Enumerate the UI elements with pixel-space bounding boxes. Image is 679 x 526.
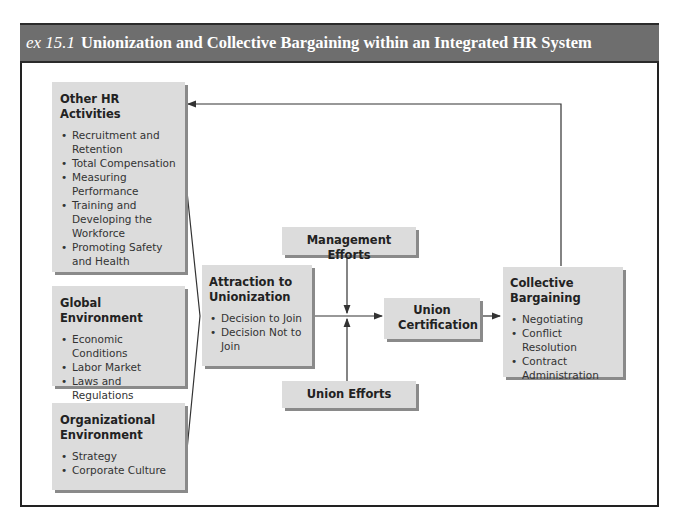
box-title: Attraction to Unionization — [209, 275, 305, 305]
list-item: Labor Market — [60, 360, 177, 374]
box-management-efforts: Management Efforts — [282, 227, 416, 255]
box-attraction-to-unionization: Attraction to Unionization Decision to J… — [202, 265, 312, 366]
list-item: Recruitment and Retention — [60, 128, 177, 156]
bracket-line — [186, 182, 200, 460]
box-union-certification: Union Certification — [384, 298, 480, 339]
box-title: Union Efforts — [286, 387, 412, 402]
list-item: Strategy — [60, 449, 177, 463]
box-title: Other HR Activities — [60, 92, 177, 122]
list-item: Laws and Regulations — [60, 374, 177, 402]
box-organizational-environment: Organizational Environment Strategy Corp… — [52, 403, 185, 490]
box-global-environment: Global Environment Economic Conditions L… — [52, 286, 185, 386]
box-other-hr-activities: Other HR Activities Recruitment and Rete… — [52, 82, 185, 272]
box-title: Management Efforts — [286, 233, 412, 263]
list-item: Conflict Resolution — [510, 326, 616, 354]
list-item: Economic Conditions — [60, 332, 177, 360]
box-title: Union Certification — [398, 303, 466, 333]
box-collective-bargaining: Collective Bargaining Negotiating Confli… — [503, 267, 623, 377]
box-title: Global Environment — [60, 296, 177, 326]
list-item: Corporate Culture — [60, 463, 177, 477]
list-item: Promoting Safety and Health — [60, 240, 177, 268]
list-item: Training and Developing the Workforce — [60, 198, 177, 240]
list-item: Negotiating — [510, 312, 616, 326]
list-item: Total Compensation — [60, 156, 177, 170]
box-union-efforts: Union Efforts — [282, 381, 416, 408]
box-title: Organizational Environment — [60, 413, 177, 443]
list-item: Contract Administration — [510, 354, 616, 382]
list-item: Measuring Performance — [60, 170, 177, 198]
list-item: Decision Not to Join — [209, 325, 305, 353]
box-title: Collective Bargaining — [510, 276, 616, 306]
list-item: Decision to Join — [209, 311, 305, 325]
